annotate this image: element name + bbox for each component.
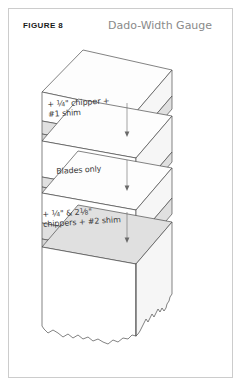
step1-suffix: " chipper + <box>65 96 110 108</box>
step3-mid: " & 2 <box>60 208 80 218</box>
dado-gauge-illustration: .stroke { fill: none; stroke: #4d4d4d; s… <box>8 8 233 378</box>
step3-suffix: " <box>88 207 92 216</box>
figure-page: FIGURE 8 Dado-Width Gauge .stroke { fill… <box>0 0 243 388</box>
annotation-step-1: + 1⁄4" chipper + #1 shim <box>47 94 110 119</box>
